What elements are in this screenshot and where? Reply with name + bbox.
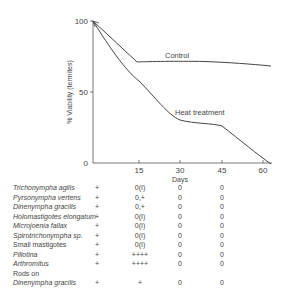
day45-value: 0 [212,240,232,250]
control-label: Control [165,51,190,60]
table-row: Rods on [0,269,285,279]
day45-value: 0 [212,231,232,241]
day30-value: 0 [170,240,190,250]
day30-value: 0 [170,250,190,260]
day30-value: 0 [170,259,190,269]
day15-value: + [126,278,154,288]
organism-name: Dinenympha gracilis [13,202,76,212]
table-row: Trichonympha agilis + 0(I) 0 0 [0,183,285,193]
day30-value: 0 [170,193,190,203]
day15-value: ++++ [126,259,154,269]
organism-name: Holomastigotes elongatum [13,212,96,222]
y-tick-label-100: 100 [75,17,89,26]
day45-value: 0 [212,183,232,193]
day30-value: 0 [170,278,190,288]
day30-value: 0 [170,183,190,193]
day0-value: + [93,212,101,222]
table-row: Pyrsonympha vertens + 0,+ 0 0 [0,193,285,203]
day45-value: 0 [212,259,232,269]
day0-value: + [93,221,101,231]
x-tick-label-60: 60 [259,166,268,175]
organism-name: Rods on [13,269,39,279]
day15-value: 0(I) [126,183,154,193]
y-tick-label-50: 50 [79,88,88,97]
day15-value: 0(I) [126,221,154,231]
y-axis-title: % Viability (termites) [66,60,74,124]
table-row: Microjoenia fallax + 0(I) 0 0 [0,221,285,231]
day0-value: + [93,278,101,288]
organism-name: Microjoenia fallax [13,221,67,231]
x-tick-label-30: 30 [176,166,185,175]
day15-value: 0,+ [126,193,154,203]
x-tick-label-45: 45 [218,166,227,175]
day0-value: + [93,231,101,241]
day0-value: + [93,250,101,260]
x-tick-label-15: 15 [135,166,144,175]
organism-name: Pyrsonympha vertens [13,193,81,203]
day45-value: 0 [212,221,232,231]
table-row: Dinenympha gracilis + 0,+ 0 0 [0,202,285,212]
viability-chart: 100 50 0 15 30 45 60 Days % Viability (t… [0,0,285,200]
day15-value: ++++ [126,250,154,260]
day0-value: + [93,183,101,193]
organism-name: Dinenympha gracilis [13,278,76,288]
day30-value: 0 [170,212,190,222]
heat-treatment-curve [93,21,271,164]
day45-value: 0 [212,202,232,212]
organism-name: Trichonympha agilis [13,183,75,193]
day30-value: 0 [170,231,190,241]
day15-value: 0(I) [126,231,154,241]
table-row: Holomastigotes elongatum + 0(I) 0 0 [0,212,285,222]
organism-name: Arthromitus [13,259,49,269]
day45-value: 0 [212,212,232,222]
table-row: Arthromitus + ++++ 0 0 [0,259,285,269]
organism-name: Small mastigotes [13,240,66,250]
day15-value: 0(I) [126,240,154,250]
organism-name: Spirotrichonympha sp. [13,231,83,241]
day45-value: 0 [212,278,232,288]
table-row: Small mastigotes + 0(I) 0 0 [0,240,285,250]
day15-value: 0,+ [126,202,154,212]
day45-value: 0 [212,250,232,260]
day0-value: + [93,259,101,269]
day45-value: 0 [212,193,232,203]
table-row: Pillotina + ++++ 0 0 [0,250,285,260]
day0-value: + [93,202,101,212]
day15-value: 0(I) [126,212,154,222]
table-row: Spirotrichonympha sp. + 0(I) 0 0 [0,231,285,241]
y-tick-label-0: 0 [84,159,89,168]
table-row: Dinenympha gracilis + + 0 0 [0,278,285,288]
day30-value: 0 [170,221,190,231]
day0-value: + [93,193,101,203]
heat-treatment-label: Heat treatment [175,108,226,117]
day30-value: 0 [170,202,190,212]
organism-name: Pillotina [13,250,38,260]
day0-value: + [93,240,101,250]
